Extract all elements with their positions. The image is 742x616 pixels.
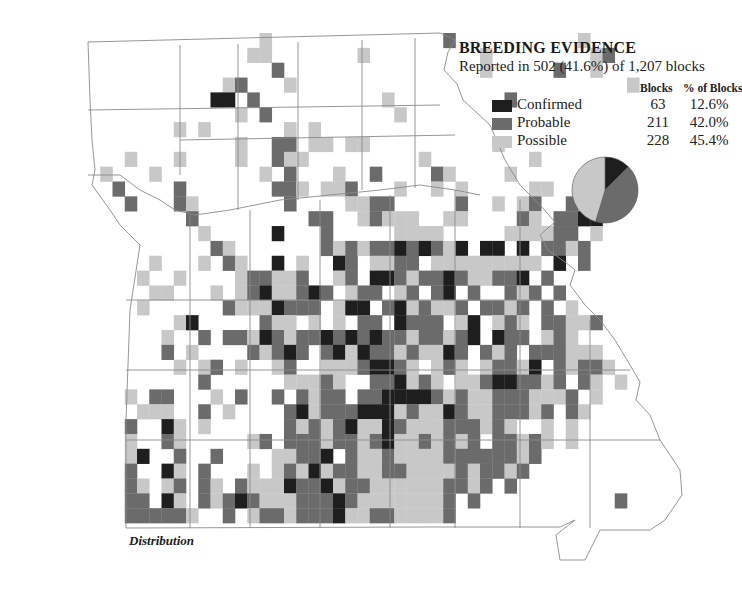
block-cell <box>554 330 567 345</box>
block-cell <box>321 360 334 375</box>
block-cell <box>566 389 579 404</box>
block-cell <box>407 211 420 226</box>
block-cell <box>345 345 358 360</box>
block-cell <box>333 300 346 315</box>
block-cell <box>284 508 297 523</box>
block-cell <box>419 241 432 256</box>
block-cell <box>443 211 456 226</box>
block-cell <box>529 404 542 419</box>
block-cell <box>284 464 297 479</box>
block-cell <box>456 464 469 479</box>
block-cell <box>431 285 444 300</box>
block-cell <box>235 389 248 404</box>
block-cell <box>333 464 346 479</box>
block-cell <box>321 241 334 256</box>
swatch-possible <box>492 136 512 148</box>
block-cell <box>566 330 579 345</box>
block-cell <box>321 404 334 419</box>
block-cell <box>235 78 248 93</box>
block-cell <box>456 211 469 226</box>
block-cell <box>492 345 505 360</box>
block-cell <box>431 271 444 286</box>
block-cell <box>321 493 334 508</box>
block-cell <box>407 345 420 360</box>
block-cell <box>296 479 309 494</box>
block-cell <box>162 404 175 419</box>
block-cell <box>211 389 224 404</box>
block-cell <box>456 449 469 464</box>
block-cell <box>174 360 187 375</box>
block-cell <box>247 345 260 360</box>
block-cell <box>382 493 395 508</box>
block-cell <box>309 285 322 300</box>
block-cell <box>358 137 371 152</box>
block-cell <box>370 493 383 508</box>
block-cell <box>284 78 297 93</box>
block-cell <box>505 479 518 494</box>
block-cell <box>590 389 603 404</box>
block-cell <box>407 464 420 479</box>
block-cell <box>321 375 334 390</box>
block-cell <box>505 434 518 449</box>
block-cell <box>480 271 493 286</box>
block-cell <box>358 285 371 300</box>
block-cell <box>456 360 469 375</box>
block-cell <box>541 315 554 330</box>
block-cell <box>541 300 554 315</box>
block-cell <box>456 345 469 360</box>
block-cell <box>394 271 407 286</box>
block-cell <box>419 345 432 360</box>
block-cell <box>198 464 211 479</box>
block-cell <box>333 330 346 345</box>
block-cell <box>186 345 199 360</box>
block-cell <box>235 107 248 122</box>
block-cell <box>296 256 309 271</box>
block-cell <box>615 493 628 508</box>
block-cell <box>370 211 383 226</box>
block-cell <box>480 375 493 390</box>
block-cell <box>174 464 187 479</box>
block-cell <box>492 389 505 404</box>
block-cell <box>211 241 224 256</box>
block-cell <box>345 256 358 271</box>
block-cell <box>284 182 297 197</box>
block-cell <box>407 360 420 375</box>
block-cell <box>284 404 297 419</box>
block-cell <box>382 330 395 345</box>
block-cell <box>492 315 505 330</box>
block-cell <box>554 226 567 241</box>
block-cell <box>443 508 456 523</box>
block-cell <box>492 196 505 211</box>
block-cell <box>394 464 407 479</box>
block-cell <box>272 285 285 300</box>
block-cell <box>272 330 285 345</box>
block-cell <box>309 508 322 523</box>
block-cell <box>566 300 579 315</box>
block-cell <box>468 285 481 300</box>
block-cell <box>284 419 297 434</box>
block-cell <box>309 315 322 330</box>
block-cell <box>456 271 469 286</box>
block-cell <box>309 464 322 479</box>
block-cell <box>480 345 493 360</box>
block-cell <box>198 404 211 419</box>
block-cell <box>517 211 530 226</box>
block-cell <box>566 226 579 241</box>
block-cell <box>260 479 273 494</box>
block-cell <box>370 434 383 449</box>
block-cell <box>370 375 383 390</box>
block-cell <box>407 256 420 271</box>
block-cell <box>456 479 469 494</box>
block-cell <box>394 449 407 464</box>
block-cell <box>284 360 297 375</box>
block-cell <box>407 493 420 508</box>
block-cell <box>468 404 481 419</box>
block-cell <box>431 464 444 479</box>
block-cell <box>578 360 591 375</box>
block-cell <box>125 434 138 449</box>
block-cell <box>431 167 444 182</box>
block-cell <box>382 375 395 390</box>
pct-probable: 42.0% <box>679 114 739 131</box>
block-cell <box>321 434 334 449</box>
block-cell <box>296 449 309 464</box>
